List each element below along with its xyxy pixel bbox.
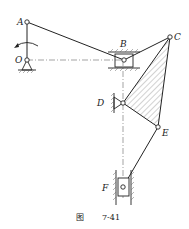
label-a: A — [16, 17, 24, 27]
label-c: C — [174, 32, 181, 42]
rotation-arrow-icon — [14, 43, 38, 49]
label-f: F — [101, 183, 109, 193]
joint-o — [25, 58, 29, 62]
triangle-plate-cde — [123, 37, 170, 127]
joint-e — [156, 125, 160, 129]
label-o: O — [15, 55, 23, 65]
joint-a — [25, 20, 29, 24]
joint-c — [168, 35, 172, 39]
joint-b — [122, 58, 126, 62]
caption-number: 7-41 — [102, 213, 120, 222]
label-e: E — [161, 128, 169, 138]
label-b: B — [119, 39, 127, 49]
joint-f — [121, 185, 125, 189]
joint-d — [121, 101, 125, 105]
caption-prefix: 图 — [76, 213, 84, 222]
label-d: D — [96, 98, 104, 108]
mechanism-diagram: A O B C D E F 图 7-41 — [0, 0, 189, 229]
link-ab — [27, 22, 124, 60]
